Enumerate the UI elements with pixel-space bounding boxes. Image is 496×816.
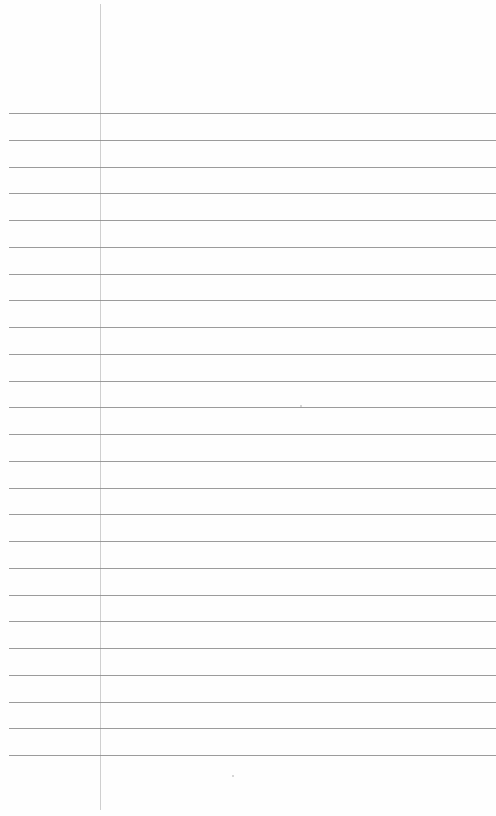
ruled-line <box>9 595 496 596</box>
ruled-line <box>9 327 496 328</box>
ruled-line <box>9 274 496 275</box>
notebook-page <box>0 0 496 816</box>
ruled-line <box>9 354 496 355</box>
ruled-line <box>9 702 496 703</box>
ruled-line <box>9 407 496 408</box>
ruled-line <box>9 648 496 649</box>
ruled-line <box>9 140 496 141</box>
ruled-line <box>9 461 496 462</box>
ruled-line <box>9 167 496 168</box>
ruled-line <box>9 514 496 515</box>
ruled-line <box>9 247 496 248</box>
ruled-line <box>9 193 496 194</box>
ruled-line <box>9 488 496 489</box>
ruled-line <box>9 300 496 301</box>
ruled-line <box>9 541 496 542</box>
ruled-line <box>9 568 496 569</box>
ruled-line <box>9 675 496 676</box>
ruled-line <box>9 728 496 729</box>
ruled-line <box>9 434 496 435</box>
ruled-line <box>9 381 496 382</box>
ruled-line <box>9 220 496 221</box>
ruled-line <box>9 113 496 114</box>
paper-speck <box>300 405 302 407</box>
ruled-line <box>9 755 496 756</box>
ruled-line <box>9 621 496 622</box>
paper-speck <box>232 775 234 777</box>
